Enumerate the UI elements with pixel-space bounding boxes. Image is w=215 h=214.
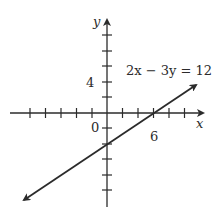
y-axis-label: y: [92, 14, 101, 29]
equation-label: 2x − 3y = 12: [126, 63, 212, 78]
x-axis-label: x: [196, 116, 204, 131]
coordinate-plane: y x 4 0 6 2x − 3y = 12: [0, 0, 215, 214]
tick-label-x6: 6: [150, 129, 158, 144]
tick-label-y4: 4: [86, 75, 94, 90]
line-2x-3y-12: [24, 85, 196, 200]
origin-label: 0: [91, 120, 99, 135]
